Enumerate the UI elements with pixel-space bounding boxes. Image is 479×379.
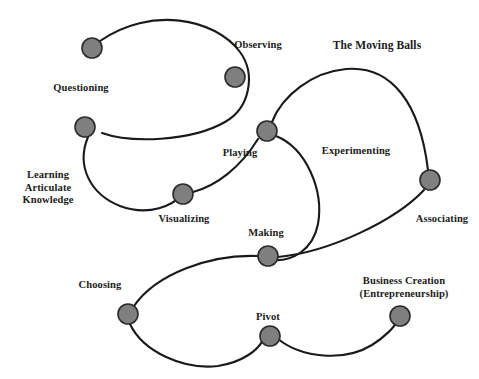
curve-arc-playing-making — [272, 136, 319, 260]
ball-choosing[interactable] — [118, 304, 138, 324]
label-experimenting: Experimenting — [322, 145, 390, 158]
ball-questioning[interactable] — [82, 38, 102, 58]
label-business: Business Creation (Entrepreneurship) — [360, 275, 449, 300]
diagram-title: The Moving Balls — [333, 39, 422, 52]
label-observing: Observing — [234, 39, 282, 52]
label-questioning: Questioning — [53, 82, 108, 95]
label-visualizing: Visualizing — [159, 213, 210, 226]
curve-arc-pivot-business — [278, 323, 396, 356]
label-choosing: Choosing — [79, 279, 122, 292]
curve-loop-choosing-pivot — [130, 324, 263, 367]
ball-learning[interactable] — [75, 117, 95, 137]
ball-group — [75, 38, 440, 346]
label-making: Making — [248, 227, 284, 240]
ball-visualizing[interactable] — [173, 184, 193, 204]
ball-playing[interactable] — [257, 121, 277, 141]
ball-making[interactable] — [258, 246, 278, 266]
curve-loop-choosing-making — [134, 256, 258, 306]
label-learning: Learning Articulate Knowledge — [22, 169, 73, 207]
label-playing: Playing — [223, 147, 258, 160]
curve-arc-making-associating — [278, 190, 424, 257]
label-pivot: Pivot — [256, 311, 280, 324]
curve-loop-learning-visualizing — [84, 137, 183, 210]
label-associating: Associating — [416, 213, 468, 226]
ball-observing[interactable] — [225, 67, 245, 87]
ball-associating[interactable] — [420, 170, 440, 190]
ball-pivot[interactable] — [260, 326, 280, 346]
ball-business[interactable] — [390, 306, 410, 326]
moving-balls-diagram: QuestioningObservingLearning Articulate … — [0, 0, 479, 379]
